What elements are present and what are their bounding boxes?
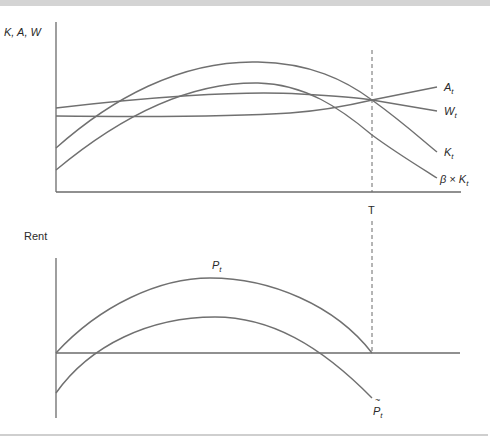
label-w: Wt — [444, 105, 457, 120]
bottom-divider — [0, 434, 488, 436]
label-p: Pt — [212, 259, 222, 274]
label-beta-k: β × Kt — [439, 173, 469, 188]
bottom-panel: Rent Pt ~ Pt — [24, 221, 460, 420]
t-marker-label: T — [368, 204, 375, 216]
label-p-tilde: Pt — [373, 405, 383, 420]
top-y-axis-label: K, A, W — [4, 26, 42, 38]
curve-p — [56, 278, 372, 353]
diagram-canvas: K, A, W At Wt Kt β × Kt T Rent Pt ~ Pt — [0, 0, 499, 447]
curve-p-tilde — [56, 317, 372, 398]
curve-beta-k — [56, 83, 437, 178]
top-panel: K, A, W At Wt Kt β × Kt T — [4, 22, 469, 216]
curve-k — [56, 62, 437, 152]
label-k: Kt — [444, 146, 454, 161]
bottom-y-axis-label: Rent — [24, 230, 47, 242]
label-a: At — [443, 81, 454, 96]
curve-w — [56, 93, 437, 111]
label-p-tilde-accent: ~ — [375, 395, 380, 405]
